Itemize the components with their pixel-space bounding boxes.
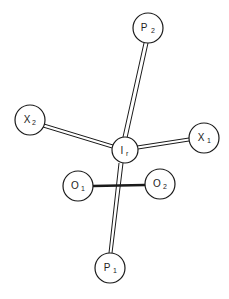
svg-text:X: X [24, 114, 31, 125]
atom-p2: P 2 [133, 13, 163, 43]
bond-ir-p2 [127, 43, 148, 138]
svg-text:X: X [198, 132, 205, 143]
svg-text:2: 2 [151, 27, 155, 34]
atom-p1: P 1 [95, 253, 125, 283]
bond-o1-o2 [93, 185, 145, 186]
svg-text:1: 1 [113, 267, 117, 274]
atom-o2: O 2 [145, 169, 175, 199]
svg-text:I: I [121, 145, 124, 156]
atom-ir: I r [112, 137, 138, 163]
molecular-structure-diagram: P 2 X 2 X 1 I r O 1 O 2 P [0, 0, 229, 299]
bond-ir-x2 [43, 127, 112, 148]
bond-ir-x2 [44, 124, 113, 145]
svg-text:1: 1 [207, 137, 211, 144]
svg-text:2: 2 [32, 119, 36, 126]
svg-text:P: P [141, 22, 148, 33]
svg-text:2: 2 [163, 183, 167, 190]
bond-ir-p2 [123, 43, 144, 137]
svg-text:P: P [104, 262, 111, 273]
atom-o1: O 1 [63, 171, 93, 201]
svg-text:O: O [153, 178, 161, 189]
svg-text:O: O [71, 180, 79, 191]
atom-x2: X 2 [15, 105, 45, 135]
atom-x1: X 1 [189, 123, 219, 153]
svg-text:1: 1 [81, 185, 85, 192]
atoms: P 2 X 2 X 1 I r O 1 O 2 P [15, 13, 219, 283]
